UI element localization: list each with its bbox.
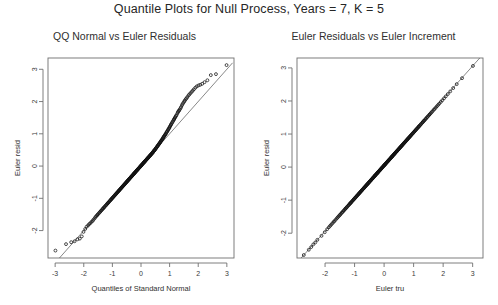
- plot-right: -2-10123Euler tru-2-10123Euler resid: [249, 24, 498, 305]
- svg-text:3: 3: [225, 270, 229, 277]
- svg-text:3: 3: [31, 67, 38, 71]
- panel-euler-vs-euler: Euler Residuals vs Euler Increment -2-10…: [249, 24, 498, 305]
- svg-text:1: 1: [280, 132, 287, 136]
- svg-text:-1: -1: [280, 197, 287, 203]
- x-axis-right: -2-10123Euler tru: [322, 263, 475, 293]
- svg-text:0: 0: [31, 164, 38, 168]
- svg-text:Quantiles of Standard Normal: Quantiles of Standard Normal: [92, 284, 191, 293]
- svg-text:1: 1: [168, 270, 172, 277]
- svg-text:-3: -3: [52, 270, 58, 277]
- x-axis-left: -3-2-10123Quantiles of Standard Normal: [52, 263, 229, 293]
- svg-text:2: 2: [31, 100, 38, 104]
- figure-root: Quantile Plots for Null Process, Years =…: [0, 0, 498, 305]
- svg-text:-2: -2: [31, 227, 38, 233]
- panel-qq-normal: QQ Normal vs Euler Residuals -3-2-10123Q…: [0, 24, 249, 305]
- y-axis-left: -2-10123Euler resid: [13, 67, 43, 233]
- svg-text:3: 3: [471, 270, 475, 277]
- svg-text:Euler resid: Euler resid: [262, 140, 271, 176]
- svg-text:-2: -2: [280, 230, 287, 236]
- svg-text:-1: -1: [31, 195, 38, 201]
- svg-text:0: 0: [139, 270, 143, 277]
- svg-text:2: 2: [196, 270, 200, 277]
- svg-text:1: 1: [31, 132, 38, 136]
- figure-title: Quantile Plots for Null Process, Years =…: [0, 2, 498, 16]
- svg-text:Euler tru: Euler tru: [376, 284, 404, 293]
- svg-text:1: 1: [412, 270, 416, 277]
- svg-text:0: 0: [382, 270, 386, 277]
- svg-text:-2: -2: [322, 270, 328, 277]
- data-points-left: [54, 64, 228, 252]
- svg-text:2: 2: [441, 270, 445, 277]
- plot-left: -3-2-10123Quantiles of Standard Normal-2…: [0, 24, 249, 305]
- svg-text:-2: -2: [81, 270, 87, 277]
- y-axis-right: -2-10123Euler resid: [262, 66, 292, 236]
- svg-text:3: 3: [280, 66, 287, 70]
- svg-text:-1: -1: [109, 270, 115, 277]
- svg-text:-1: -1: [351, 270, 357, 277]
- svg-text:0: 0: [280, 165, 287, 169]
- svg-text:2: 2: [280, 99, 287, 103]
- svg-text:Euler resid: Euler resid: [13, 140, 22, 176]
